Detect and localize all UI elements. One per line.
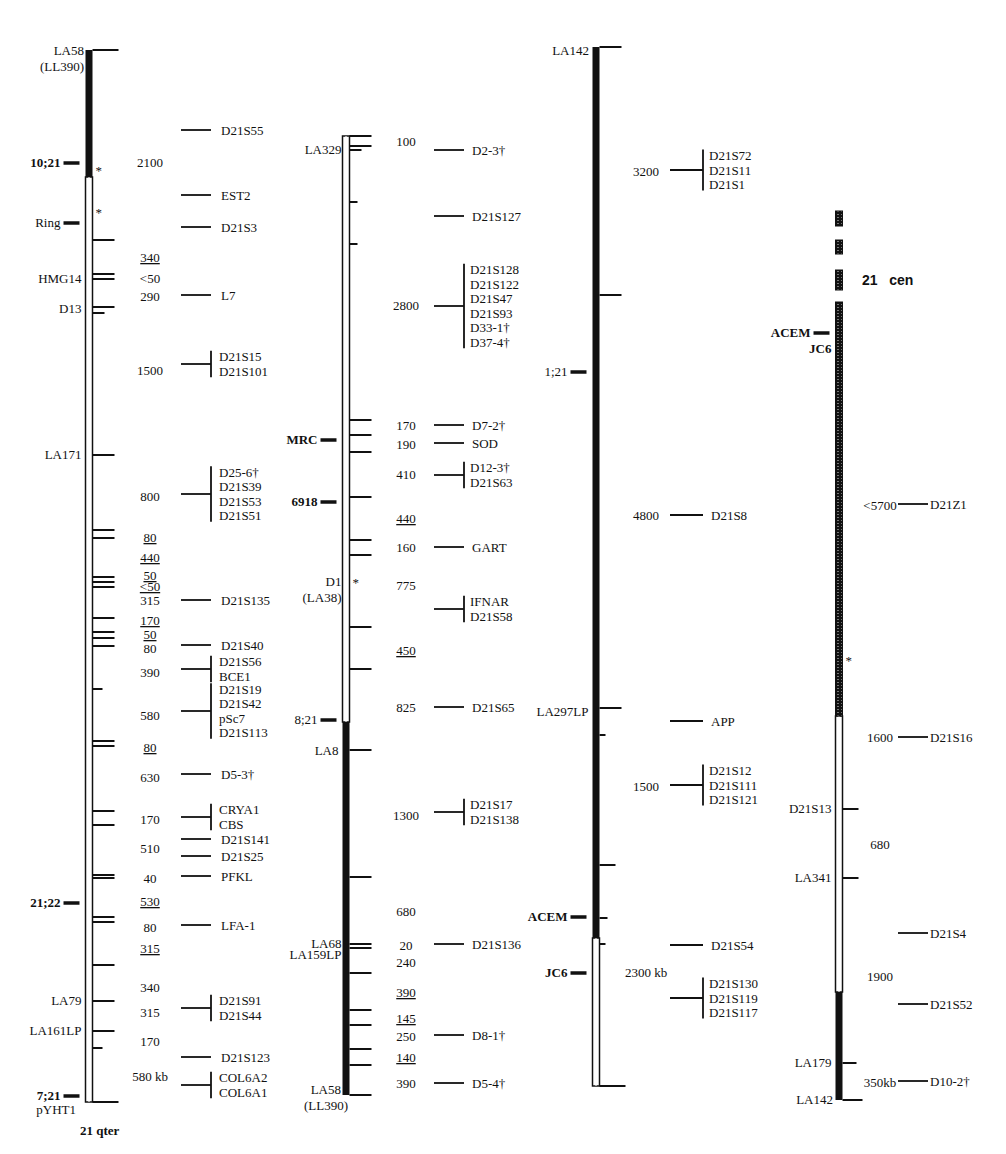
distance-label: 680 <box>396 904 416 919</box>
probe-name: D21S25 <box>221 849 264 864</box>
probe-name: IFNAR <box>470 594 509 609</box>
probe-name: D21S91 <box>219 993 262 1008</box>
left-marker-label: Ring <box>35 215 61 230</box>
solid-bar-segment <box>343 722 350 1095</box>
probe-group: CRYA1CBS <box>181 802 259 832</box>
distance-label: 510 <box>140 841 160 856</box>
distance-label: 160 <box>396 540 416 555</box>
distance-label: 1600 <box>867 730 893 745</box>
probe-name: D21S138 <box>470 812 519 827</box>
distance-label: 145 <box>396 1011 416 1026</box>
probe-group: EST2 <box>181 188 251 203</box>
probe-name: D21S17 <box>470 797 513 812</box>
distance-label: 680 <box>870 837 890 852</box>
probe-name: D21S12 <box>709 763 752 778</box>
probe-group: D21S128D21S122D21S47D21S93D33-1†D37-4† <box>434 262 519 350</box>
probe-name: D37-4† <box>470 335 510 350</box>
probe-name: D8-1† <box>472 1028 506 1043</box>
left-marker-label: LA79 <box>51 993 81 1008</box>
probe-name: D21S8 <box>711 508 747 523</box>
chromosome-map-2: LA58(LL390)LA329MRC6918D1(LA38)8;21LA8LA… <box>286 134 521 1113</box>
left-marker-label: LA297LP <box>537 704 589 719</box>
probe-group: D21S130D21S119D21S117 <box>670 976 758 1020</box>
probe-group: D21S56BCE1 <box>181 654 262 684</box>
probe-name: D21S123 <box>221 1050 270 1065</box>
figure-label-21-qter: 21 qter <box>80 1123 120 1138</box>
probe-name: D21S58 <box>470 609 513 624</box>
distance-label: 315 <box>140 941 160 956</box>
distance-label: 2100 <box>137 155 163 170</box>
probe-group: D21S4 <box>898 926 967 941</box>
chromosome-map-1: LA58(LL390)pYHT110;21RingHMG14D13LA17121… <box>30 43 271 1117</box>
probe-group: IFNARD21S58 <box>434 594 513 624</box>
left-marker-label: LA159LP <box>290 947 342 962</box>
left-marker-label: LA171 <box>45 447 82 462</box>
distance-label: 80 <box>144 641 157 656</box>
probe-name: D21S11 <box>709 163 751 178</box>
distance-label: <50 <box>140 579 160 594</box>
probe-group: D21S54 <box>670 938 754 953</box>
probe-group: D21S3 <box>181 220 257 235</box>
distance-label: 80 <box>144 530 157 545</box>
probe-name: D21S54 <box>711 938 754 953</box>
centromere-block <box>836 270 843 290</box>
left-marker-label: HMG14 <box>38 271 82 286</box>
probe-name: D21Z1 <box>930 497 967 512</box>
probe-name: D21S117 <box>709 1005 758 1020</box>
chromosome-map-3: LA1421;21LA297LPACEMJC63200480015002300 … <box>528 43 758 1086</box>
distance-label: 4800 <box>633 508 659 523</box>
map-canvas: LA58(LL390)pYHT110;21RingHMG14D13LA17121… <box>0 0 1006 1154</box>
centromere-block <box>836 211 843 226</box>
distance-label: 140 <box>396 1050 416 1065</box>
probe-group: D21S15D21S101 <box>181 349 268 379</box>
left-marker-label: LA179 <box>795 1055 832 1070</box>
probe-group: D21S72D21S11D21S1 <box>670 148 752 192</box>
distance-label: 80 <box>144 920 157 935</box>
distance-label: 410 <box>396 467 416 482</box>
distance-label: 530 <box>140 894 160 909</box>
distance-label: 440 <box>396 511 416 526</box>
end-label: LA142 <box>552 43 589 58</box>
left-marker-label: 6918 <box>292 494 319 509</box>
distance-label: 1500 <box>137 363 163 378</box>
probe-group: D25-6†D21S39D21S53D21S51 <box>181 465 262 524</box>
probe-name: SOD <box>472 436 498 451</box>
distance-label: 2800 <box>393 298 419 313</box>
probe-group: D21S25 <box>181 849 264 864</box>
distance-label: 250 <box>396 1029 416 1044</box>
probe-group: D21S17D21S138 <box>434 797 519 827</box>
probe-name: D5-4† <box>472 1076 506 1091</box>
left-marker-label: 7;21 <box>37 1088 61 1103</box>
left-marker-label: 10;21 <box>30 155 60 170</box>
left-marker-label: 1;21 <box>544 364 567 379</box>
distance-label: 390 <box>396 985 416 1000</box>
probe-group: D2-3† <box>434 143 506 158</box>
probe-group: COL6A2COL6A1 <box>181 1070 267 1100</box>
probe-name: D21S65 <box>472 700 515 715</box>
probe-group: L7 <box>181 288 236 303</box>
probe-name: D21S16 <box>930 730 973 745</box>
probe-name: D21S39 <box>219 479 262 494</box>
probe-name: D21S56 <box>219 654 262 669</box>
distance-label: 1300 <box>393 808 419 823</box>
probe-name: D21S1 <box>709 177 745 192</box>
distance-label: 340 <box>140 980 160 995</box>
probe-name: LFA-1 <box>221 918 255 933</box>
end-label: (LL390) <box>304 1098 348 1113</box>
distance-label: 170 <box>396 418 416 433</box>
distance-label: 170 <box>140 812 160 827</box>
asterisk-mark: * <box>353 575 360 590</box>
probe-name: D21S52 <box>930 997 973 1012</box>
probe-name: D21S40 <box>221 638 264 653</box>
end-label: LA58 <box>54 43 84 58</box>
probe-name: D12-3† <box>470 460 510 475</box>
probe-name: D21S44 <box>219 1008 262 1023</box>
probe-name: D33-1† <box>470 320 510 335</box>
distance-label: 630 <box>140 770 160 785</box>
probe-name: COL6A1 <box>219 1085 267 1100</box>
distance-label: 170 <box>140 1034 160 1049</box>
probe-group: PFKL <box>181 869 253 884</box>
probe-name: D21S141 <box>221 832 270 847</box>
distance-label: 800 <box>140 489 160 504</box>
distance-label: 580 kb <box>132 1069 168 1084</box>
